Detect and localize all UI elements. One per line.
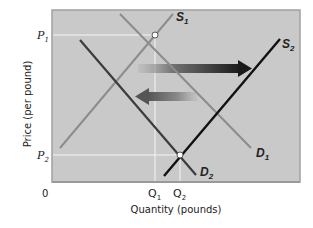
equilibrium-point-2 [177, 152, 183, 158]
tick-p1: P1 [36, 29, 49, 44]
tick-p2: P2 [36, 149, 49, 164]
tick-q2: Q2 [173, 187, 186, 202]
x-axis-label: Quantity (pounds) [131, 204, 222, 215]
equilibrium-point-1 [152, 32, 158, 38]
origin-label: 0 [42, 188, 48, 199]
supply-demand-chart: S1 S2 D1 D2 P1 P2 0 Q1 Q2 Quantity (poun… [0, 0, 313, 228]
tick-q1: Q1 [148, 187, 161, 202]
y-axis-label: Price (per pound) [22, 61, 33, 148]
